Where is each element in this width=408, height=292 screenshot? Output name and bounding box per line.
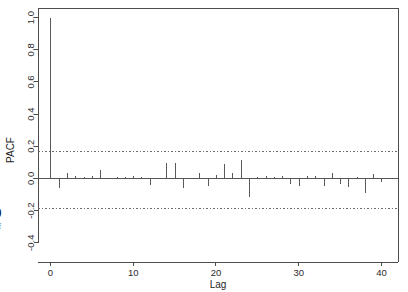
- y-tick-label: 0.6: [25, 75, 36, 88]
- y-tick-label: 0.8: [25, 43, 36, 56]
- y-tick-label: 1.0: [25, 11, 36, 24]
- figure-caption-line-2: 0.: [0, 241, 16, 251]
- x-axis-title: Lag: [210, 279, 227, 290]
- y-tick-label: 0.0: [25, 172, 36, 185]
- figure-caption-number: 9: [0, 206, 16, 221]
- y-tick-label: -0.4: [25, 235, 36, 251]
- x-tick-label: 40: [376, 267, 387, 278]
- x-tick-label: 30: [293, 267, 304, 278]
- y-axis-title: PACF: [5, 137, 16, 163]
- pacf-chart: 1.00.80.60.40.20.0-0.2-0.4010203040 PACF…: [0, 0, 408, 292]
- y-tick-label: -0.2: [25, 202, 36, 218]
- y-tick-label: 0.2: [25, 140, 36, 153]
- pacf-figure: 1.00.80.60.40.20.0-0.2-0.4010203040 PACF…: [0, 0, 408, 292]
- figure-caption-line-1: n: [0, 232, 16, 242]
- figure-caption-line-0: of: [0, 222, 16, 232]
- figure-caption: 9 of n 0.: [0, 206, 16, 262]
- y-tick-label: 0.4: [25, 107, 36, 120]
- x-tick-label: 10: [128, 267, 139, 278]
- x-tick-label: 0: [48, 267, 53, 278]
- x-tick-label: 20: [211, 267, 222, 278]
